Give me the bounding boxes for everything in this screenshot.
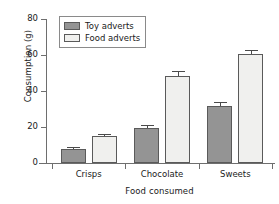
legend-label-food-adverts: Food adverts <box>85 34 140 43</box>
bar-chart: Consumption (g) Food consumed 020406080 … <box>0 0 279 204</box>
legend-item-toy-adverts: Toy adverts <box>64 20 140 32</box>
y-tick-mark <box>41 163 47 164</box>
chart-legend: Toy adverts Food adverts <box>59 16 146 48</box>
legend-item-food-adverts: Food adverts <box>64 32 140 44</box>
y-tick-mark <box>41 19 47 20</box>
y-tick-mark <box>41 127 47 128</box>
y-tick-label: 60 <box>8 50 38 59</box>
x-tick-mark <box>125 164 126 169</box>
y-tick-label: 20 <box>8 122 38 131</box>
bar-chocolate-toy-adverts <box>134 128 159 163</box>
legend-swatch-icon-toy-adverts <box>64 22 80 30</box>
y-tick-label: 40 <box>8 86 38 95</box>
bar-chocolate-food-adverts <box>165 76 190 163</box>
x-tick-mark <box>199 164 200 169</box>
error-bar-cap <box>141 125 154 126</box>
error-bar-cap <box>67 147 80 148</box>
x-axis-line <box>39 163 275 164</box>
error-bar-cap <box>98 134 111 135</box>
bar-sweets-food-adverts <box>238 54 263 163</box>
x-tick-mark <box>52 164 53 169</box>
legend-swatch-icon-food-adverts <box>64 34 80 42</box>
error-bar-cap <box>245 50 258 51</box>
error-bar-cap <box>172 71 185 72</box>
bar-sweets-toy-adverts <box>207 106 232 163</box>
x-tick-mark <box>272 164 273 169</box>
x-tick-label: Crisps <box>49 170 129 179</box>
error-bar-cap <box>214 102 227 103</box>
y-tick-label: 80 <box>8 14 38 23</box>
x-axis-title: Food consumed <box>44 186 275 196</box>
y-tick-mark <box>41 91 47 92</box>
x-tick-label: Sweets <box>195 170 275 179</box>
x-tick-label: Chocolate <box>122 170 202 179</box>
y-tick-label: 0 <box>8 158 38 167</box>
bar-crisps-toy-adverts <box>61 149 86 163</box>
bar-crisps-food-adverts <box>92 136 117 163</box>
y-tick-mark <box>41 55 47 56</box>
legend-label-toy-adverts: Toy adverts <box>85 22 134 31</box>
